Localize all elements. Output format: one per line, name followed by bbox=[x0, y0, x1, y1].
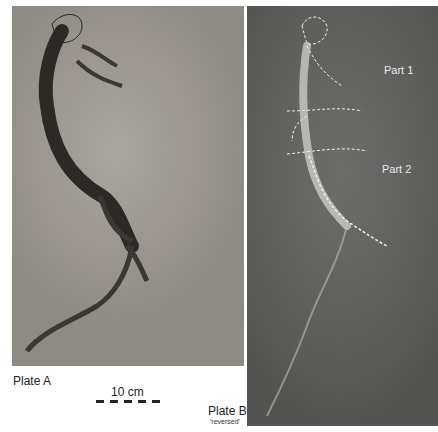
plate-a-label: Plate A bbox=[13, 374, 51, 388]
annotation-part-2: Part 2 bbox=[382, 163, 411, 175]
annotation-part-1: Part 1 bbox=[384, 64, 413, 76]
plate-b-photo: Part 1 Part 2 bbox=[247, 6, 438, 426]
plate-b-label: Plate B bbox=[208, 404, 247, 418]
plate-a-photo bbox=[12, 6, 244, 366]
scale-label: 10 cm bbox=[111, 385, 144, 399]
fossil-skeleton-a bbox=[12, 6, 244, 366]
scale-bar bbox=[96, 400, 162, 403]
plate-b-sublabel: 'reversed' bbox=[210, 418, 240, 425]
